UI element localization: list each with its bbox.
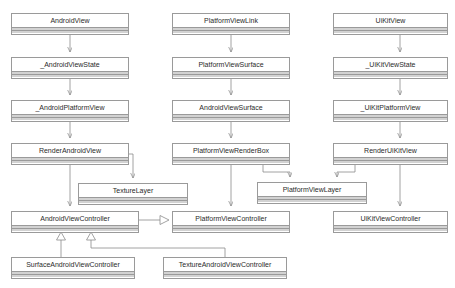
- uml-class-platform_view_link[interactable]: PlatformViewLink: [172, 13, 290, 35]
- uml-class-android_view_surface[interactable]: AndroidViewSurface: [172, 100, 290, 122]
- uml-operations-compartment: [173, 228, 289, 231]
- uml-operations-compartment: [12, 228, 138, 231]
- realization-arrowhead-icon: [160, 216, 169, 225]
- edge-render-to-texturelayer: [129, 154, 133, 178]
- uml-class-name: AndroidViewController: [12, 212, 138, 225]
- uml-operations-compartment: [12, 160, 128, 163]
- uml-operations-compartment: [79, 200, 187, 203]
- uml-class-surface_android_vc[interactable]: SurfaceAndroidViewController: [11, 257, 135, 279]
- uml-class-name: PlatformViewSurface: [173, 58, 289, 71]
- edge-texture-vc-to-avc: [91, 240, 225, 257]
- uml-class-name: TextureAndroidViewController: [164, 258, 286, 271]
- edge-renderbox-to-platformviewlayer: [263, 165, 290, 177]
- uml-class-name: RenderAndroidView: [12, 144, 128, 157]
- uml-operations-compartment: [12, 274, 134, 277]
- uml-class-name: UiKitView: [334, 14, 447, 27]
- uml-class-android_view[interactable]: AndroidView: [11, 13, 129, 35]
- uml-class-diagram: AndroidView_AndroidViewState_AndroidPlat…: [0, 0, 455, 288]
- uml-class-platform_view_layer[interactable]: PlatformViewLayer: [257, 182, 367, 204]
- uml-class-name: TextureLayer: [79, 184, 187, 197]
- uml-class-texture_layer[interactable]: TextureLayer: [78, 183, 188, 205]
- uml-class-platform_view_surface[interactable]: PlatformViewSurface: [172, 57, 290, 79]
- uml-class-name: AndroidView: [12, 14, 128, 27]
- uml-class-uikit_view_state[interactable]: _UiKitViewState: [333, 57, 448, 79]
- uml-class-name: RenderUiKitView: [334, 144, 447, 157]
- uml-operations-compartment: [334, 228, 447, 231]
- uml-operations-compartment: [258, 199, 366, 202]
- uml-operations-compartment: [173, 117, 289, 120]
- uml-operations-compartment: [173, 74, 289, 77]
- uml-class-android_view_state[interactable]: _AndroidViewState: [11, 57, 129, 79]
- uml-class-name: PlatformViewRenderBox: [173, 144, 289, 157]
- uml-class-platform_view_controller[interactable]: PlatformViewController: [172, 211, 290, 233]
- uml-class-android_platform_view[interactable]: _AndroidPlatformView: [11, 100, 129, 122]
- uml-class-platform_view_renderbox[interactable]: PlatformViewRenderBox: [172, 143, 290, 165]
- edge-renderuikit-to-platformviewlayer: [337, 165, 355, 177]
- generalization-arrowhead-surface-icon: [57, 232, 66, 240]
- uml-operations-compartment: [334, 30, 447, 33]
- uml-operations-compartment: [164, 274, 286, 277]
- uml-class-render_android_view[interactable]: RenderAndroidView: [11, 143, 129, 165]
- uml-operations-compartment: [334, 117, 447, 120]
- uml-operations-compartment: [334, 160, 447, 163]
- uml-class-texture_android_vc[interactable]: TextureAndroidViewController: [163, 257, 287, 279]
- uml-operations-compartment: [12, 30, 128, 33]
- uml-class-name: _AndroidViewState: [12, 58, 128, 71]
- uml-class-name: PlatformViewLink: [173, 14, 289, 27]
- uml-class-name: _UiKitPlatformView: [334, 101, 447, 114]
- uml-class-uikit_view_controller[interactable]: UiKitViewController: [333, 211, 448, 233]
- generalization-arrowhead-texture-icon: [87, 232, 96, 240]
- uml-class-uikit_platform_view[interactable]: _UiKitPlatformView: [333, 100, 448, 122]
- uml-class-render_uikit_view[interactable]: RenderUiKitView: [333, 143, 448, 165]
- uml-class-android_view_controller[interactable]: AndroidViewController: [11, 211, 139, 233]
- uml-operations-compartment: [12, 117, 128, 120]
- uml-class-name: PlatformViewController: [173, 212, 289, 225]
- uml-operations-compartment: [12, 74, 128, 77]
- uml-operations-compartment: [173, 160, 289, 163]
- uml-class-name: _AndroidPlatformView: [12, 101, 128, 114]
- uml-operations-compartment: [334, 74, 447, 77]
- uml-class-uikit_view[interactable]: UiKitView: [333, 13, 448, 35]
- uml-class-name: _UiKitViewState: [334, 58, 447, 71]
- uml-class-name: PlatformViewLayer: [258, 183, 366, 196]
- uml-class-name: SurfaceAndroidViewController: [12, 258, 134, 271]
- uml-operations-compartment: [173, 30, 289, 33]
- uml-class-name: AndroidViewSurface: [173, 101, 289, 114]
- uml-class-name: UiKitViewController: [334, 212, 447, 225]
